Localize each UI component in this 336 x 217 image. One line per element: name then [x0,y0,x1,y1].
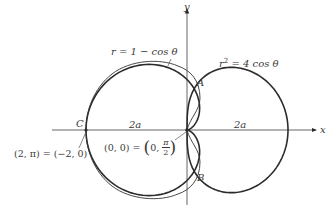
lemniscate-label-rhs: = 4 cos θ [228,58,278,69]
polar-curves-figure: y x r = 1 − cos θ r2 = 4 cos θ A B C 2a … [0,0,336,217]
pi-over-2-fraction: π2 [162,138,169,157]
point-c-label: C [76,119,84,129]
right-span-label: 2a [234,120,246,130]
fraction-denominator: 2 [162,148,169,157]
point-b-label: B [197,173,204,183]
y-axis-label: y [184,2,190,12]
origin-polar-equivalence: (0, 0) = (0, π2) [104,138,176,157]
origin-lhs: (0, 0) = [104,142,144,153]
c-annotation-leader [79,132,86,148]
x-axis-label: x [320,125,326,135]
origin-annotation-leader [175,132,186,140]
left-span-label: 2a [129,120,141,130]
origin-dot [185,128,189,132]
point-c-dot [84,128,87,131]
lemniscate-equation-label: r2 = 4 cos θ [219,58,278,69]
c-polar-equivalence: (2, π) = (−2, 0) [14,149,87,159]
fraction-numerator: π [162,138,169,148]
origin-zero: 0, [150,142,162,153]
cardioid-equation-label: r = 1 − cos θ [111,47,178,57]
point-a-label: A [197,78,204,88]
origin-close-paren: ) [170,137,177,157]
figure-canvas [0,0,336,217]
